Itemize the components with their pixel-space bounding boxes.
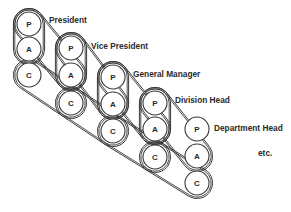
node-letter: C (68, 99, 74, 108)
node-c-col-5: C (185, 171, 209, 195)
role-label-4: Division Head (175, 95, 230, 105)
node-letter: P (68, 44, 74, 53)
node-a-col-4: A (143, 117, 167, 141)
node-letter: C (152, 153, 158, 162)
node-letter: C (194, 179, 200, 188)
node-letter: A (152, 125, 158, 134)
node-letter: A (68, 71, 74, 80)
node-a-col-5: A (185, 144, 209, 168)
node-letter: C (26, 71, 32, 80)
node-a-col-3: A (101, 92, 125, 116)
node-letter: A (110, 100, 116, 109)
role-label-3: General Manager (133, 69, 201, 79)
node-c-col-2: C (59, 91, 83, 115)
node-p-col-2: P (59, 36, 83, 60)
labels-layer: PresidentVice PresidentGeneral ManagerDi… (49, 15, 283, 133)
node-c-col-4: C (143, 145, 167, 169)
role-label-1: President (49, 15, 87, 25)
node-letter: P (194, 125, 200, 134)
etc-label: etc. (258, 148, 272, 158)
hierarchy-belt-diagram: PACPACPACPACPAC PresidentVice PresidentG… (0, 0, 291, 212)
node-letter: A (194, 152, 200, 161)
node-c-col-3: C (101, 119, 125, 143)
node-letter: P (152, 99, 158, 108)
node-letter: A (26, 45, 32, 54)
role-label-5: Department Head (214, 123, 283, 133)
node-a-col-1: A (17, 37, 41, 61)
node-p-col-5: P (185, 117, 209, 141)
node-letter: P (26, 20, 32, 29)
node-a-col-2: A (59, 63, 83, 87)
node-p-col-3: P (101, 65, 125, 89)
node-p-col-1: P (17, 12, 41, 36)
node-c-col-1: C (17, 63, 41, 87)
node-p-col-4: P (143, 91, 167, 115)
role-label-2: Vice President (91, 41, 148, 51)
node-letter: C (110, 127, 116, 136)
node-letter: P (110, 73, 116, 82)
